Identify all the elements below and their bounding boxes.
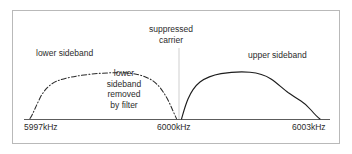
upper-sideband-curve (182, 72, 321, 119)
x-axis-tick-label-5997: 5997kHz (24, 122, 58, 132)
annotation-lower-sideband: lower sideband (36, 48, 93, 58)
x-axis-tick-label-6000: 6000kHz (157, 122, 191, 132)
ssb-spectrum-figure: lower sideband suppressed carrier upper … (0, 0, 352, 154)
x-axis-tick-label-6003: 6003kHz (292, 122, 326, 132)
annotation-suppressed-carrier: suppressed carrier (143, 24, 199, 45)
annotation-lower-sideband-removed: lower sideband removed by filter (98, 68, 150, 110)
annotation-upper-sideband: upper sideband (248, 50, 307, 60)
